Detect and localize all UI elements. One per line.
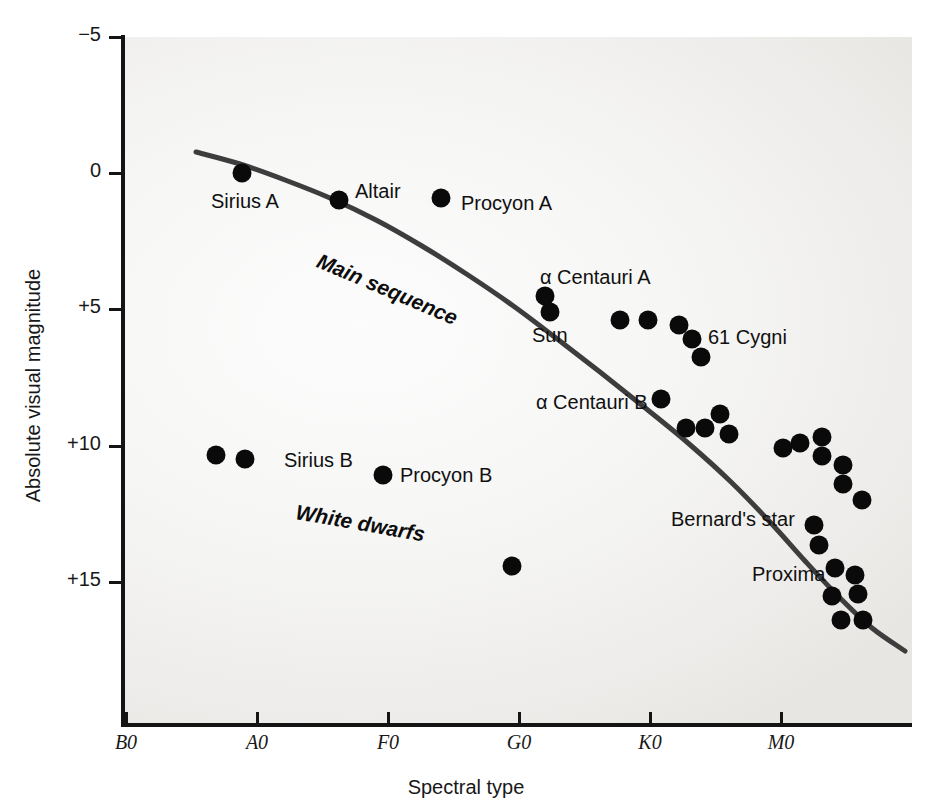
star-label-altair: Altair: [355, 180, 401, 203]
star-label-bernards-star: Bernard's star: [671, 508, 795, 531]
y-axis-tick: [109, 172, 123, 175]
x-axis-tick: [387, 712, 390, 726]
x-axis-tick: [780, 712, 783, 726]
y-axis-tick-label: −5: [41, 23, 101, 46]
y-axis-tick-label: +10: [41, 432, 101, 455]
star-label-procyon-b: Procyon B: [400, 464, 492, 487]
star-label-sirius-a: Sirius A: [211, 190, 279, 213]
star-label-procyon-a: Procyon A: [461, 192, 552, 215]
star-label-sun: Sun: [532, 324, 568, 347]
x-axis-tick: [125, 712, 128, 726]
y-axis-line: [121, 35, 125, 727]
x-axis-title: Spectral type: [0, 776, 932, 799]
star-label-alpha-cen-b: α Centauri B: [536, 391, 648, 414]
y-axis-tick-label: +15: [41, 568, 101, 591]
star-label-proxima: Proxima: [752, 563, 825, 586]
paper-texture: [123, 37, 912, 725]
x-axis-tick: [649, 712, 652, 726]
y-axis-tick-label: 0: [41, 159, 101, 182]
x-axis-tick: [256, 712, 259, 726]
x-axis-tick-label: A0: [217, 731, 297, 754]
x-axis-tick-label: K0: [610, 731, 690, 754]
y-axis-tick: [109, 308, 123, 311]
star-label-61-cygni: 61 Cygni: [708, 326, 787, 349]
x-axis-tick-label: F0: [348, 731, 428, 754]
star-label-alpha-cen-a: α Centauri A: [540, 266, 651, 289]
hr-diagram-figure: −50+5+10+15 B0A0F0G0K0M0 Sirius AAltairP…: [0, 0, 932, 811]
plot-area: [123, 37, 912, 725]
x-axis-tick-label: M0: [741, 731, 821, 754]
y-axis-tick: [109, 445, 123, 448]
y-axis-tick: [109, 581, 123, 584]
x-axis-line: [121, 723, 912, 727]
y-axis-tick: [109, 36, 123, 39]
y-axis-title: Absolute visual magnitude: [22, 156, 45, 616]
star-label-sirius-b: Sirius B: [284, 449, 353, 472]
x-axis-tick: [518, 712, 521, 726]
y-axis-tick-label: +5: [41, 295, 101, 318]
x-axis-tick-label: B0: [86, 731, 166, 754]
x-axis-tick-label: G0: [479, 731, 559, 754]
